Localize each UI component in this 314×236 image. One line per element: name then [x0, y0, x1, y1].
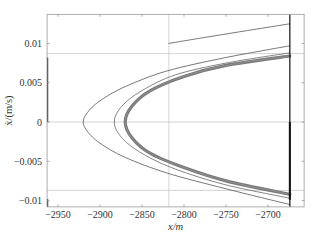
- x-axis-label: x/m: [167, 221, 184, 232]
- x-tick-label: −2750: [213, 209, 239, 220]
- y-tick-label: 0.01: [25, 38, 43, 49]
- x-tick-label: −2900: [87, 209, 113, 220]
- y-tick-label: −0.01: [19, 195, 42, 206]
- trajectory-series: [83, 24, 290, 205]
- y-tick-label: −0.005: [14, 156, 42, 167]
- x-tick-label: −2850: [129, 209, 155, 220]
- reference-lines: [47, 14, 304, 207]
- plot-frame: [47, 14, 304, 207]
- y-tick-label: 0.005: [20, 77, 43, 88]
- trajectory-line: [169, 24, 290, 44]
- y-axis-label: ẋ/(m/s): [3, 95, 15, 126]
- x-tick-label: −2800: [171, 209, 197, 220]
- x-tick-label: −2950: [45, 209, 71, 220]
- phase-portrait-chart: −2950−2900−2850−2800−2750−2700 0.010.005…: [0, 0, 314, 236]
- trajectory-line: [114, 53, 290, 198]
- x-tick-label: −2700: [255, 209, 281, 220]
- y-tick-label: 0: [37, 117, 42, 128]
- trajectory-line: [83, 46, 290, 205]
